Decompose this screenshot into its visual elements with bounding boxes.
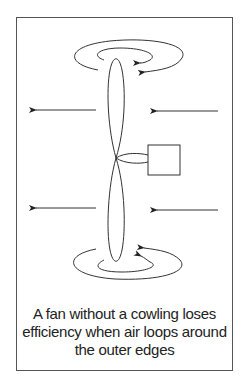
caption-line-3: the outer edges — [16, 341, 233, 359]
vortex-outer-top — [75, 40, 183, 72]
caption-line-1: A fan without a cowling loses — [16, 305, 233, 323]
figure-caption: A fan without a cowling loses efficiency… — [16, 305, 233, 359]
vortex-outer-bottom — [74, 248, 182, 279]
fan-blade-top — [108, 59, 124, 158]
motor-box — [148, 145, 180, 175]
vortex-inner-bottom — [98, 256, 153, 272]
motor-shaft — [116, 153, 148, 163]
vortex-inner-top — [97, 48, 152, 63]
caption-line-2: efficiency when air loops around — [16, 323, 233, 341]
fan-blade-bottom — [108, 158, 124, 261]
